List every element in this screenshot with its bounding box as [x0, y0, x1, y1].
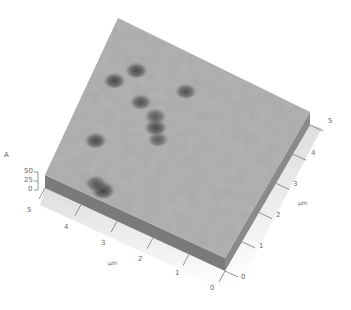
left-tick-3: 3 — [101, 240, 105, 247]
pit — [125, 60, 149, 78]
pit — [84, 130, 108, 148]
pit — [103, 70, 127, 88]
z-tick-50: 50 — [24, 168, 33, 175]
z-axis — [34, 172, 38, 190]
pit — [144, 106, 167, 123]
left-axis-unit-label: µm — [108, 260, 118, 266]
left-tick-4: 4 — [64, 224, 68, 231]
right-tick-0: 0 — [241, 274, 245, 281]
right-tick-4: 4 — [311, 150, 315, 157]
pit — [84, 173, 108, 191]
right-tick-5: 5 — [328, 118, 332, 125]
z-tick-25: 25 — [24, 177, 33, 184]
right-tick-1: 1 — [259, 243, 263, 250]
pit — [129, 92, 152, 109]
z-tick-0: 0 — [28, 186, 32, 193]
pit — [174, 81, 197, 98]
left-tick-5: 5 — [27, 207, 31, 214]
left-tick-1: 1 — [175, 270, 179, 277]
surface-plot — [0, 0, 351, 310]
right-axis-unit-label: µm — [298, 200, 308, 206]
right-tick-2: 2 — [276, 212, 280, 219]
z-axis-unit-label: A — [4, 152, 9, 159]
left-tick-0: 0 — [210, 285, 214, 292]
left-tick-2: 2 — [138, 256, 142, 263]
right-tick-3: 3 — [293, 181, 297, 188]
